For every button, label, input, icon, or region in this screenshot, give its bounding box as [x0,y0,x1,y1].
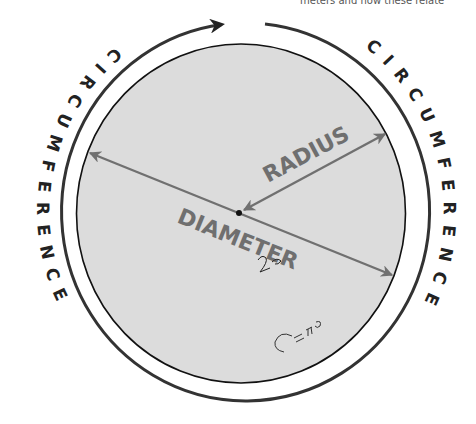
clipped-top-text: meters and how these relate [300,0,444,6]
center-point [236,210,242,216]
circle-diagram: meters and how these relate RADIUS DIAME… [0,0,476,424]
